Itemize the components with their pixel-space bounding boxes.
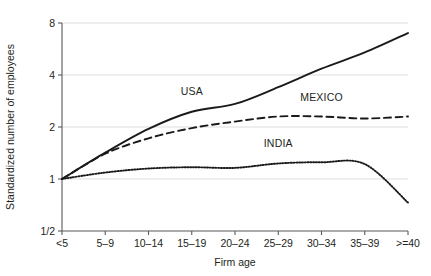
x-tick-label: 10–14 — [134, 237, 163, 249]
y-tick-label: 1/2 — [40, 225, 55, 237]
series-label-usa: USA — [181, 85, 203, 97]
y-tick-label: 8 — [49, 17, 55, 29]
x-tick-label: 25–29 — [264, 237, 293, 249]
x-tick-label: <5 — [56, 237, 68, 249]
x-tick-label: 20–24 — [220, 237, 249, 249]
y-axis-ticks-group: 1/21248 — [40, 17, 62, 237]
data-series-group — [62, 33, 408, 203]
y-tick-label: 4 — [49, 69, 55, 81]
x-tick-label: 5–9 — [96, 237, 114, 249]
y-axis-title: Standardized number of employees — [4, 44, 16, 210]
x-tick-label: 30–34 — [307, 237, 336, 249]
chart-container: 1/21248 <55–910–1415–1920–2425–2930–3435… — [0, 0, 431, 276]
x-tick-label: >=40 — [396, 237, 420, 249]
gridlines-group — [62, 23, 408, 179]
series-line-usa — [62, 33, 408, 179]
series-label-mexico: MEXICO — [300, 91, 343, 103]
x-axis-title: Firm age — [214, 256, 256, 268]
series-line-india — [62, 161, 408, 203]
x-axis-ticks-group: <55–910–1415–1920–2425–2930–3435–39>=40 — [56, 231, 420, 249]
x-tick-label: 35–39 — [350, 237, 379, 249]
line-chart: 1/21248 <55–910–1415–1920–2425–2930–3435… — [0, 0, 431, 276]
series-label-india: INDIA — [264, 137, 293, 149]
x-tick-label: 15–19 — [177, 237, 206, 249]
y-tick-label: 1 — [49, 173, 55, 185]
y-tick-label: 2 — [49, 121, 55, 133]
